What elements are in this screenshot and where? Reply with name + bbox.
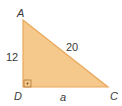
right-angle-dot <box>27 83 29 85</box>
triangle-shape <box>23 20 108 87</box>
vertex-label-a: A <box>17 8 24 19</box>
triangle-figure: A D C 12 20 a <box>0 0 122 106</box>
vertex-label-c: C <box>110 91 118 102</box>
side-label-ad: 12 <box>6 52 18 63</box>
vertex-label-d: D <box>14 91 22 102</box>
side-label-ac: 20 <box>66 42 78 53</box>
side-label-dc: a <box>60 92 66 103</box>
